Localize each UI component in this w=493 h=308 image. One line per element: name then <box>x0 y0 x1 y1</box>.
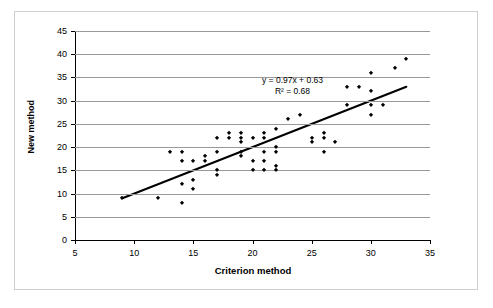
regression-equation: y = 0.97x + 0.63 <box>262 75 323 86</box>
y-tick-15 <box>71 170 75 171</box>
x-tick-20 <box>253 240 254 244</box>
y-tick-10 <box>71 194 75 195</box>
x-tick-label-20: 20 <box>247 248 257 258</box>
gridline-y-25 <box>75 124 430 125</box>
x-tick-label-25: 25 <box>307 248 317 258</box>
y-tick-label-35: 35 <box>57 72 67 82</box>
x-tick-label-30: 30 <box>366 248 376 258</box>
gridline-y-40 <box>75 54 430 55</box>
x-tick-35 <box>430 240 431 244</box>
x-tick-30 <box>371 240 372 244</box>
regression-annotation: y = 0.97x + 0.63 R² = 0.68 <box>262 75 323 96</box>
x-axis-title: Criterion method <box>75 265 431 276</box>
y-tick-35 <box>71 77 75 78</box>
y-tick-25 <box>71 124 75 125</box>
y-tick-label-5: 5 <box>62 212 67 222</box>
y-tick-label-30: 30 <box>57 96 67 106</box>
y-tick-label-25: 25 <box>57 119 67 129</box>
gridline-y-30 <box>75 101 430 102</box>
y-tick-45 <box>71 31 75 32</box>
y-tick-20 <box>71 147 75 148</box>
scatter-chart: New method Criterion method y = 0.97x + … <box>0 0 493 308</box>
y-tick-label-45: 45 <box>57 26 67 36</box>
x-tick-15 <box>193 240 194 244</box>
x-tick-25 <box>312 240 313 244</box>
x-tick-label-15: 15 <box>188 248 198 258</box>
y-tick-30 <box>71 101 75 102</box>
y-tick-label-10: 10 <box>57 189 67 199</box>
gridline-y-35 <box>75 77 430 78</box>
y-tick-label-0: 0 <box>62 235 67 245</box>
y-tick-40 <box>71 54 75 55</box>
x-tick-label-10: 10 <box>129 248 139 258</box>
gridline-y-5 <box>75 217 430 218</box>
gridline-y-45 <box>75 31 430 32</box>
x-tick-label-5: 5 <box>72 248 77 258</box>
y-tick-label-40: 40 <box>57 49 67 59</box>
x-tick-10 <box>134 240 135 244</box>
y-tick-label-20: 20 <box>57 142 67 152</box>
y-tick-label-15: 15 <box>57 165 67 175</box>
y-tick-5 <box>71 217 75 218</box>
plot-area <box>75 31 430 240</box>
x-tick-5 <box>75 240 76 244</box>
x-tick-label-35: 35 <box>425 248 435 258</box>
y-axis-title: New method <box>26 100 36 154</box>
r-squared-value: R² = 0.68 <box>262 86 323 97</box>
gridline-y-10 <box>75 194 430 195</box>
gridline-y-20 <box>75 147 430 148</box>
